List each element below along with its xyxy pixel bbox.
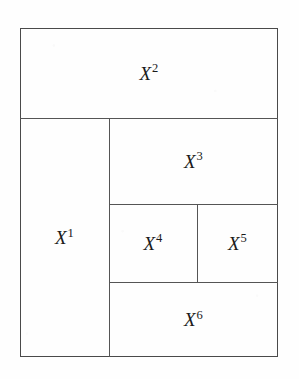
region-x3-exponent: 3 bbox=[196, 149, 202, 163]
region-x3-base: X bbox=[184, 151, 196, 172]
region-x4: X4 bbox=[109, 204, 197, 282]
region-x5-label: X5 bbox=[228, 234, 247, 253]
region-x4-base: X bbox=[144, 233, 156, 254]
region-x5-base: X bbox=[228, 233, 240, 254]
region-x4-exponent: 4 bbox=[156, 231, 162, 245]
region-x4-label: X4 bbox=[144, 234, 163, 253]
region-x5-exponent: 5 bbox=[240, 231, 246, 245]
region-x2-base: X bbox=[140, 63, 152, 84]
region-x6-base: X bbox=[184, 309, 196, 330]
region-x3: X3 bbox=[109, 118, 278, 204]
region-x1: X1 bbox=[20, 118, 109, 357]
region-x6-label: X6 bbox=[184, 310, 203, 329]
region-x2-exponent: 2 bbox=[152, 61, 158, 75]
diagram-canvas: X1 X2 X3 X4 X5 X6 bbox=[0, 0, 299, 379]
region-x6: X6 bbox=[109, 282, 278, 357]
region-x2: X2 bbox=[20, 28, 278, 118]
region-x5: X5 bbox=[197, 204, 278, 282]
region-x6-exponent: 6 bbox=[196, 308, 202, 322]
region-x2-label: X2 bbox=[140, 64, 159, 83]
region-x1-base: X bbox=[55, 227, 67, 248]
region-x3-label: X3 bbox=[184, 152, 203, 171]
region-x1-label: X1 bbox=[55, 228, 74, 247]
region-x1-exponent: 1 bbox=[67, 226, 73, 240]
